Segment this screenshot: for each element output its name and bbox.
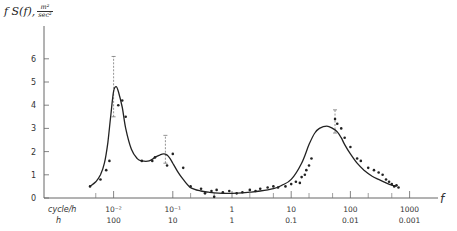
tick-labels: 012345610⁻²10010⁻¹1011100.11000.0110000.…: [31, 55, 446, 225]
observation-point: [105, 169, 108, 172]
x-tick-label-frequency: 10⁻¹: [165, 205, 182, 214]
x-tick-label-period: 0.01: [342, 216, 359, 225]
observation-point: [336, 122, 339, 125]
observation-point: [395, 184, 398, 187]
error-bars: [112, 56, 337, 163]
observation-point: [377, 171, 380, 174]
x-tick-label-period: 0.1: [285, 216, 297, 225]
observation-point: [141, 160, 144, 163]
observation-point: [393, 185, 396, 188]
observation-point: [172, 153, 175, 156]
observation-points: [89, 99, 400, 198]
observation-point: [121, 99, 124, 102]
observation-point: [151, 160, 154, 163]
observation-point: [228, 190, 231, 193]
observation-point: [213, 196, 216, 199]
y-tick-label: 5: [31, 78, 36, 87]
observation-point: [299, 182, 302, 185]
observation-point: [397, 186, 400, 189]
observation-point: [166, 164, 169, 167]
y-tick-label: 2: [31, 148, 36, 157]
observation-point: [304, 174, 307, 177]
observation-point: [210, 190, 213, 193]
observation-point: [349, 146, 352, 149]
x-tick-label-frequency: 10: [286, 205, 296, 214]
observation-point: [108, 160, 111, 163]
observation-point: [340, 127, 343, 130]
y-tick-label: 4: [31, 101, 36, 110]
observation-point: [343, 136, 346, 139]
fitted-curve-group: [90, 87, 397, 194]
observation-point: [241, 191, 244, 194]
observation-point: [385, 178, 388, 181]
observation-point: [124, 116, 127, 119]
observation-point: [300, 176, 303, 179]
y-tick-label: 0: [31, 194, 36, 203]
x-tick-label-frequency: 1: [230, 205, 235, 214]
observation-point: [99, 178, 102, 181]
x-unit-frequency-label: cycle/h: [48, 205, 76, 214]
x-unit-period-label: h: [56, 216, 61, 225]
x-tick-label-period: 10: [168, 216, 178, 225]
x-tick-label-frequency: 1000: [400, 205, 419, 214]
observation-point: [182, 167, 185, 170]
observation-point: [204, 192, 207, 195]
spectrum-chart: 012345610⁻²10010⁻¹1011100.11000.0110000.…: [0, 0, 457, 231]
observation-point: [295, 180, 298, 183]
x-tick-label-period: 1: [230, 216, 235, 225]
observation-point: [277, 186, 280, 189]
observation-point: [390, 183, 393, 186]
x-tick-label-period: 0.001: [399, 216, 421, 225]
observation-point: [89, 185, 92, 188]
observation-point: [215, 189, 218, 192]
y-tick-label: 6: [31, 55, 36, 64]
observation-point: [154, 156, 157, 159]
observation-point: [381, 174, 384, 177]
x-tick-label-period: 100: [106, 216, 121, 225]
observation-point: [356, 157, 359, 160]
observation-point: [254, 190, 257, 193]
y-tick-label: 3: [31, 124, 36, 133]
y-tick-label: 1: [31, 171, 36, 180]
x-axis-label: f: [440, 192, 446, 206]
observation-point: [388, 180, 391, 183]
observation-point: [222, 191, 225, 194]
observation-point: [290, 183, 293, 186]
observation-point: [373, 169, 376, 172]
observation-point: [334, 118, 337, 121]
observation-point: [272, 185, 275, 188]
observation-point: [367, 167, 370, 170]
observation-point: [235, 192, 238, 195]
observation-point: [266, 186, 269, 189]
observation-point: [308, 164, 311, 167]
observation-point: [200, 187, 203, 190]
observation-point: [259, 187, 262, 190]
x-tick-label-frequency: 10⁻²: [105, 205, 122, 214]
observation-point: [284, 185, 287, 188]
observation-point: [117, 104, 120, 107]
observation-point: [189, 185, 192, 188]
observation-point: [305, 169, 308, 172]
x-tick-label-frequency: 100: [343, 205, 358, 214]
fitted-spectrum-line: [90, 87, 397, 194]
observation-point: [249, 189, 252, 192]
observation-point: [310, 157, 313, 160]
observation-point: [360, 160, 363, 163]
